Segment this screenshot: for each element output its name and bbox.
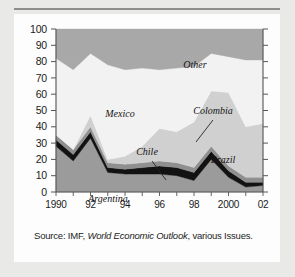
y-tick-label: 30: [36, 137, 48, 149]
y-tick-label: 60: [36, 88, 48, 100]
y-tick-label: 90: [36, 39, 48, 51]
source-note: Source: IMF, World Economic Outlook, var…: [34, 230, 284, 241]
top-divider-rule: [14, 8, 280, 10]
series-label-colombia: Colombia: [193, 105, 232, 116]
stacked-area-chart: 0102030405060708090100 19909294969820000…: [20, 20, 274, 220]
series-label-brazil: Brazil: [211, 154, 236, 165]
x-tick-label: 2000: [218, 199, 240, 210]
x-axis-tick-labels: 199092949698200002: [45, 199, 269, 210]
series-label-mexico: Mexico: [104, 108, 134, 119]
y-tick-label: 100: [30, 23, 47, 35]
series-label-chile: Chile: [136, 146, 158, 157]
source-suffix: , various Issues.: [188, 230, 253, 241]
x-tick-label: 1990: [45, 199, 67, 210]
y-tick-label: 40: [36, 120, 48, 132]
y-tick-label: 80: [36, 55, 48, 67]
chart-canvas: 0102030405060708090100 19909294969820000…: [20, 20, 274, 220]
y-tick-label: 10: [36, 169, 48, 181]
source-prefix: Source: IMF,: [34, 230, 87, 241]
y-tick-label: 0: [41, 186, 47, 198]
series-label-argentina: Argentina: [87, 193, 128, 204]
x-tick-label: 02: [258, 199, 269, 210]
y-tick-label: 50: [36, 104, 48, 116]
y-tick-label: 70: [36, 72, 48, 84]
y-tick-label: 20: [36, 153, 48, 165]
figure-page: 0102030405060708090100 19909294969820000…: [0, 0, 295, 277]
figure-card: 0102030405060708090100 19909294969820000…: [14, 14, 280, 262]
source-publication: World Economic Outlook: [87, 230, 187, 241]
x-tick-label: 98: [189, 199, 200, 210]
series-label-other: Other: [183, 59, 206, 70]
x-tick-label: 96: [154, 199, 165, 210]
y-axis-tick-labels: 0102030405060708090100: [30, 23, 47, 198]
